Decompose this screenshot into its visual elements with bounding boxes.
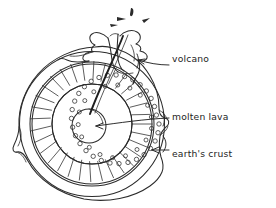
label-earths-crust: earth's crust — [172, 148, 233, 159]
label-volcano: volcano — [172, 53, 209, 64]
diagram-canvas: volcano molten lava earth's crust — [0, 0, 276, 208]
volcano-leader-arrow — [137, 54, 169, 68]
label-molten-lava: molten lava — [172, 111, 229, 122]
ejecta — [110, 8, 150, 27]
earth-volcano-diagram: volcano molten lava earth's crust — [0, 0, 276, 208]
inner-zone — [52, 84, 132, 164]
